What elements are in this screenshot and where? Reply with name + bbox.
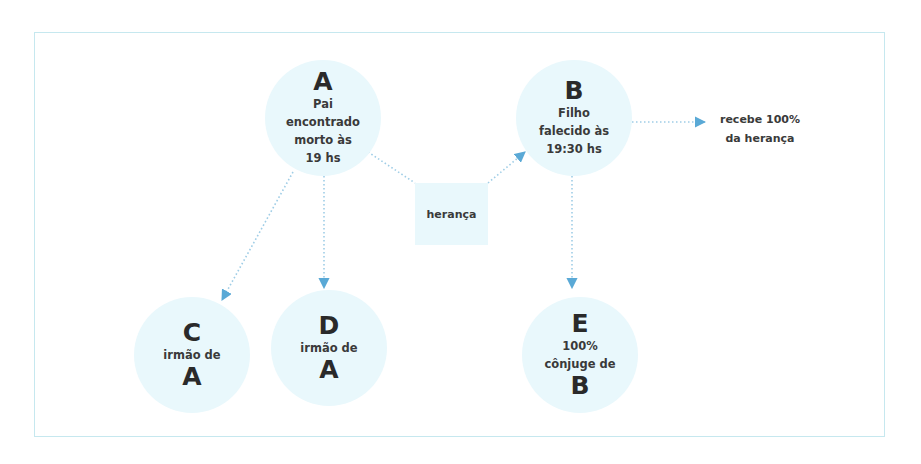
node-text: 19:30 hs [546, 140, 602, 158]
link-heranca-to-b [488, 152, 525, 183]
note-line: da herança [712, 129, 808, 148]
heranca-label: herança [427, 208, 477, 221]
node-e-spouse: E 100% cônjuge de B [522, 297, 638, 413]
node-letter: C [183, 320, 201, 346]
link-a-to-c [222, 172, 293, 300]
link-a-to-heranca [368, 152, 415, 183]
node-ref-letter: B [570, 373, 589, 399]
node-d-sibling: D irmão de A [271, 290, 387, 406]
node-text: 100% [562, 337, 598, 355]
node-b-son: B Filho falecido às 19:30 hs [516, 60, 632, 176]
node-text: falecido às [539, 122, 609, 140]
node-ref-letter: A [182, 364, 201, 390]
node-letter: E [571, 311, 588, 337]
node-letter: D [319, 313, 340, 339]
node-text: 19 hs [305, 149, 340, 167]
node-text: encontrado [286, 113, 360, 131]
node-letter: A [313, 69, 332, 95]
heranca-box: herança [415, 183, 488, 245]
node-letter: B [564, 78, 583, 104]
outcome-note: recebe 100% da herança [712, 110, 808, 148]
node-ref-letter: A [319, 357, 338, 383]
node-text: morto às [294, 131, 352, 149]
node-text: Pai [313, 95, 333, 113]
node-text: Filho [558, 104, 590, 122]
note-line: recebe 100% [712, 110, 808, 129]
node-a-father: A Pai encontrado morto às 19 hs [265, 60, 381, 176]
node-c-sibling: C irmão de A [134, 297, 250, 413]
